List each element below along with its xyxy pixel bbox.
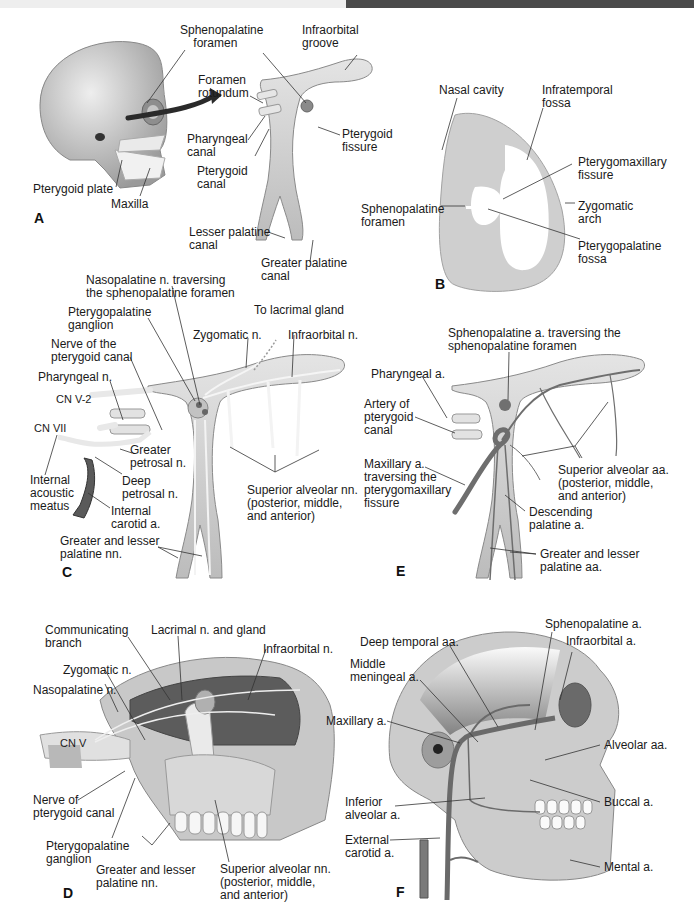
label-c-pharyngeal-n: Pharyngeal n. [38,371,112,384]
label-d-greater-lesser-palatine-nn: Greater and lesser palatine nn. [96,864,195,890]
label-b-sphenopalatine-foramen: Sphenopalatine foramen [361,203,444,229]
label-e-descending-palatine-a: Descending palatine a. [529,506,592,532]
label-b-zygomatic-arch: Zygomatic arch [578,200,633,226]
label-a-pterygoid-plate: Pterygoid plate [33,183,113,196]
label-f-external-carotid-a: External carotid a. [345,834,394,860]
label-d-superior-alveolar-nn: Superior alveolar nn. (posterior, middle… [220,863,331,902]
label-c-internal-carotid-a: Internal carotid a. [111,505,160,531]
panel-b-section [439,113,564,291]
label-e-pharyngeal-a: Pharyngeal a. [371,368,445,381]
label-f-infraorbital-a: Infraorbital a. [566,635,636,648]
label-c-cn-v2: CN V-2 [56,393,91,406]
panel-letter-f: F [396,884,405,900]
label-a-infraorbital-groove: Infraorbital groove [302,24,359,50]
label-d-lacrimal-n-gland: Lacrimal n. and gland [151,624,266,637]
panel-letter-a: A [34,210,44,226]
label-c-internal-acoustic-meatus: Internal acoustic meatus [30,474,74,513]
label-a-greater-palatine-canal: Greater palatine canal [261,257,347,283]
label-b-nasal-cavity: Nasal cavity [439,84,504,97]
label-c-zygomatic-n: Zygomatic n. [193,329,262,342]
label-f-maxillary-a: Maxillary a. [326,715,387,728]
label-e-sphenopalatine-a: Sphenopalatine a. traversing the sphenop… [448,327,621,353]
panel-letter-d: D [63,885,73,901]
label-e-maxillary-a: Maxillary a. traversing the pterygomaxil… [364,458,451,510]
label-f-middle-meningeal-a: Middle meningeal a. [350,658,419,684]
panel-a-skull [40,42,222,188]
label-c-greater-lesser-palatine-nn: Greater and lesser palatine nn. [60,535,159,561]
label-d-nasopalatine-n: Nasopalatine n. [33,684,116,697]
label-f-mental-a: Mental a. [604,861,653,874]
label-a-maxilla: Maxilla [111,198,148,211]
label-a-sphenopalatine-foramen: Sphenopalatine foramen [180,24,263,50]
label-c-superior-alveolar-nn: Superior alveolar nn. (posterior, middle… [247,484,358,523]
label-a-pharyngeal-canal: Pharyngeal canal [187,133,248,159]
label-c-nasopalatine-n: Nasopalatine n. traversing the sphenopal… [86,274,235,300]
label-c-cn-vii: CN VII [34,422,66,435]
label-c-pterygopalatine-ganglion: Pterygopalatine ganglion [68,306,151,332]
label-d-communicating-branch: Communicating branch [45,624,128,650]
label-b-pterygomaxillary-fissure: Pterygomaxillary fissure [578,156,667,182]
label-a-foramen-rotundum: Foramen rotundum [198,74,249,100]
panel-f-skull-lateral [389,632,619,900]
label-c-deep-petrosal-n: Deep petrosal n. [122,475,178,501]
label-a-pterygoid-canal: Pterygoid canal [197,165,248,191]
label-a-lesser-palatine-canal: Lesser palatine canal [189,226,270,252]
label-f-deep-temporal-aa: Deep temporal aa. [360,636,459,649]
label-b-pterygopalatine-fossa: Pterygopalatine fossa [578,240,661,266]
label-d-zygomatic-n: Zygomatic n. [63,664,132,677]
label-c-greater-petrosal-n: Greater petrosal n. [130,444,186,470]
label-f-inferior-alveolar-a: Inferior alveolar a. [345,796,400,822]
label-e-artery-pterygoid-canal: Artery of pterygoid canal [364,398,413,437]
label-d-nerve-pterygoid-canal: Nerve of pterygoid canal [33,794,114,820]
label-b-infratemporal-fossa: Infratemporal fossa [542,84,613,110]
panel-letter-e: E [396,563,405,579]
label-a-pterygoid-fissure: Pterygoid fissure [342,128,393,154]
panel-letter-b: B [435,276,445,292]
label-d-infraorbital-n: Infraorbital n. [263,643,333,656]
label-f-buccal-a: Buccal a. [604,796,653,809]
panel-letter-c: C [62,564,72,580]
label-c-infraorbital-n: Infraorbital n. [288,329,358,342]
label-f-alveolar-aa: Alveolar aa. [604,739,667,752]
label-e-greater-lesser-palatine-aa: Greater and lesser palatine aa. [540,548,639,574]
label-f-sphenopalatine-a: Sphenopalatine a. [545,618,642,631]
label-c-to-lacrimal-gland: To lacrimal gland [254,304,344,317]
label-e-superior-alveolar-aa: Superior alveolar aa. (posterior, middle… [558,464,669,503]
label-d-cn-v: CN V [60,737,86,750]
label-c-nerve-pterygoid-canal: Nerve of the pterygoid canal [51,338,132,364]
